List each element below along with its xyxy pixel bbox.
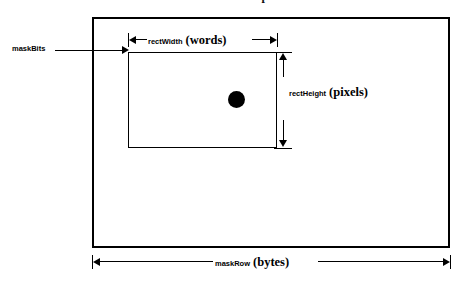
rectwidth-name: rectWidth [148, 37, 183, 46]
rectwidth-unit: (words) [186, 33, 227, 48]
rectheight-name: rectHeight [289, 89, 326, 98]
rectwidth-left-arrowhead [129, 36, 136, 44]
rectheight-top-arrowhead [279, 53, 287, 60]
rect-region [128, 52, 277, 148]
maskrow-right-arrowhead [443, 258, 450, 266]
maskrow-left-arrowhead [93, 258, 100, 266]
figure-title: mask on map [0, 0, 466, 4]
rectheight-bottom-arrowhead [279, 140, 287, 147]
maskrow-right-cap [450, 255, 451, 269]
maskrow-rule-right [318, 261, 447, 262]
rectwidth-right-cap [277, 33, 278, 47]
maskrow-label: maskRow (bytes) [215, 255, 289, 270]
maskbits-label: maskBits [12, 45, 45, 53]
rectwidth-label: rectWidth (words) [148, 33, 226, 48]
rectheight-unit: (pixels) [329, 85, 368, 100]
mask-on-map-diagram: mask on map maskBits rectWidth (words) r… [0, 0, 466, 284]
maskbits-leader-line [55, 50, 125, 51]
maskrow-unit: (bytes) [253, 255, 289, 270]
maskrow-rule-left [95, 261, 213, 262]
maskrow-name: maskRow [215, 259, 250, 268]
rectwidth-right-arrowhead [270, 36, 277, 44]
rectheight-label: rectHeight (pixels) [289, 82, 368, 100]
pixel-dot [228, 91, 245, 108]
rectheight-bottom-cap [274, 148, 292, 149]
